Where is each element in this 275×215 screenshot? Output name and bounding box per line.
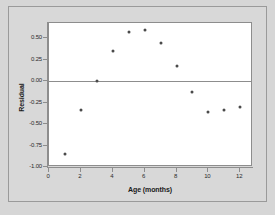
data-point: [223, 108, 226, 111]
x-axis-tick-label: 12: [236, 173, 242, 179]
data-point: [175, 64, 178, 67]
x-axis-tick-label: 6: [142, 173, 145, 179]
x-axis-tick: [207, 168, 208, 172]
y-axis-tick: [43, 59, 47, 60]
x-axis-tick: [80, 168, 81, 172]
data-point: [191, 90, 194, 93]
zero-reference-line: [49, 81, 251, 82]
data-point: [159, 41, 162, 44]
plot-panel: [48, 22, 252, 166]
y-axis-tick: [43, 123, 47, 124]
x-axis-tick: [48, 168, 49, 172]
x-axis-title: Age (months): [48, 186, 252, 193]
chart-page: 0.500.250.00-0.25-0.50-0.75-1.00 0246810…: [0, 0, 275, 215]
x-axis-tick-label: 2: [78, 173, 81, 179]
data-point: [143, 28, 146, 31]
x-axis-tick: [112, 168, 113, 172]
data-point: [127, 31, 130, 34]
x-axis-tick-label: 0: [46, 173, 49, 179]
y-axis-tick: [43, 80, 47, 81]
data-point: [207, 111, 210, 114]
data-point: [63, 153, 66, 156]
x-axis-tick-label: 10: [204, 173, 210, 179]
y-axis-tick-label: -1.00: [0, 163, 42, 169]
x-axis-tick: [239, 168, 240, 172]
x-axis-tick: [144, 168, 145, 172]
y-axis-tick: [43, 37, 47, 38]
y-axis-tick-label: -0.75: [0, 142, 42, 148]
y-axis-tick: [43, 145, 47, 146]
x-axis-line: [47, 167, 253, 168]
x-axis-tick: [176, 168, 177, 172]
data-point: [239, 106, 242, 109]
y-axis-line: [47, 22, 48, 167]
data-point: [95, 80, 98, 83]
y-axis-tick-label: 0.50: [0, 34, 42, 40]
y-axis-tick-label: 0.25: [0, 56, 42, 62]
x-axis-tick-label: 4: [110, 173, 113, 179]
data-point: [79, 108, 82, 111]
residual-scatter-chart: 0.500.250.00-0.25-0.50-0.75-1.00 0246810…: [0, 0, 275, 215]
y-axis-tick: [43, 102, 47, 103]
x-axis-tick-label: 8: [174, 173, 177, 179]
data-point: [111, 50, 114, 53]
y-axis-title: Residual: [18, 68, 25, 128]
